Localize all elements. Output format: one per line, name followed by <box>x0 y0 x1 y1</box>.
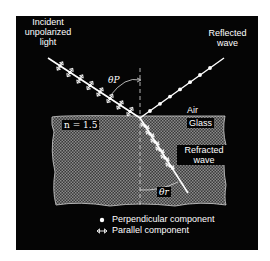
incident-ray <box>48 58 140 118</box>
refracted-label: Refracted wave <box>177 145 231 165</box>
glass-label: Glass <box>187 118 214 128</box>
legend-perpendicular: Perpendicular component <box>92 214 215 225</box>
reflected-label: Reflected wave <box>200 28 255 48</box>
theta-r-label: θr <box>157 187 171 197</box>
legend: Perpendicular component Parallel compone… <box>92 214 215 236</box>
incident-label: Incident unpolarized light <box>18 17 78 47</box>
refractive-index-label: n = 1.5 <box>62 120 99 130</box>
legend-parallel: Parallel component <box>92 225 215 236</box>
air-label: Air <box>187 105 198 115</box>
theta-p-label: θP <box>108 75 119 85</box>
